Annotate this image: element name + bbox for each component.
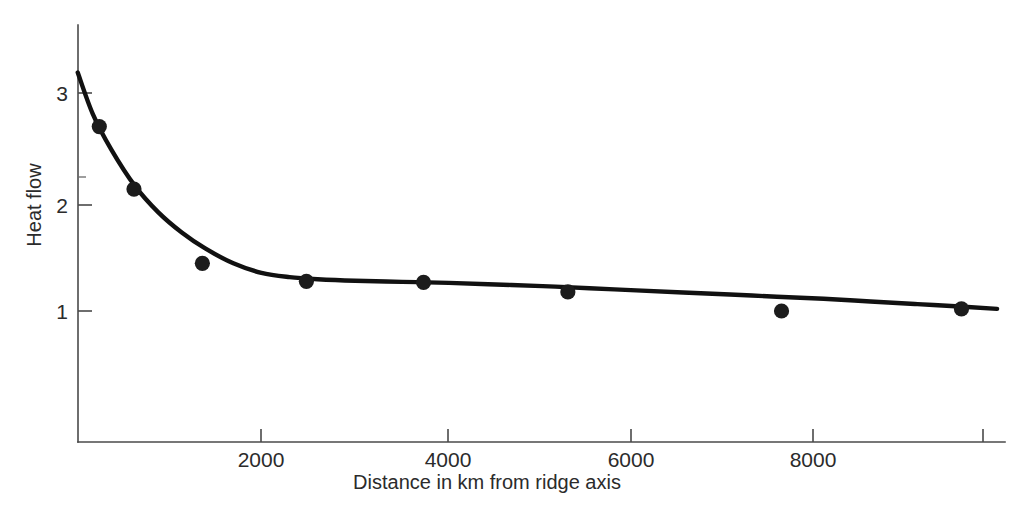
x-tick-marks: [261, 429, 983, 442]
y-tick-label-3: 3: [56, 82, 68, 105]
x-tick-label-4000: 4000: [425, 448, 472, 471]
data-point: [299, 274, 314, 289]
y-tick-marks: [78, 93, 92, 311]
data-point: [774, 303, 789, 318]
data-point: [195, 256, 210, 271]
x-tick-label-6000: 6000: [608, 448, 655, 471]
y-axis-title: Heat flow: [23, 163, 45, 247]
x-axis-title: Distance in km from ridge axis: [353, 471, 621, 493]
data-point: [416, 275, 431, 290]
x-tick-label-2000: 2000: [238, 448, 285, 471]
y-tick-label-2: 2: [56, 194, 68, 217]
data-point: [954, 301, 969, 316]
axes-group: [78, 25, 1005, 442]
y-tick-label-1: 1: [56, 300, 68, 323]
chart-canvas: 3 2 1 2000 4000 6000 8000 Distance in km…: [0, 0, 1033, 516]
data-point: [560, 284, 575, 299]
data-point: [92, 119, 107, 134]
heat-flow-chart-figure: 3 2 1 2000 4000 6000 8000 Distance in km…: [0, 0, 1033, 516]
x-tick-label-8000: 8000: [790, 448, 837, 471]
fit-curve: [78, 73, 997, 309]
data-point: [126, 182, 141, 197]
data-points-group: [92, 119, 969, 319]
